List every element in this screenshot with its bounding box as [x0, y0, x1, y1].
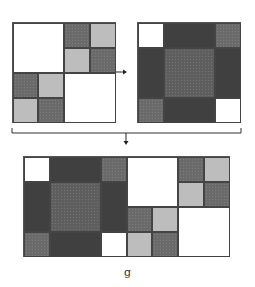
figure-label: g	[0, 266, 255, 279]
arrows-overlay	[0, 0, 255, 287]
right-arrow-icon	[116, 70, 127, 75]
bracket	[12, 128, 241, 133]
down-arrow-icon	[124, 133, 129, 145]
